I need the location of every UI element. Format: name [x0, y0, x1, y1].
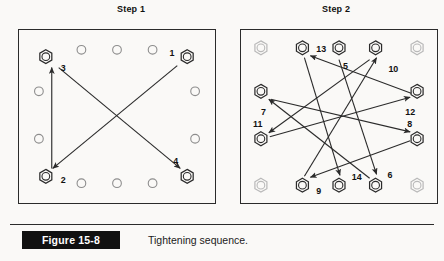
bolt-hole	[148, 45, 157, 54]
sequence-arrow-13-to-14	[304, 58, 340, 176]
sequence-arrow-10-to-11	[269, 60, 370, 133]
hex-bolt-8	[411, 132, 423, 146]
step1-bolt-numbers: 1234	[61, 48, 179, 186]
bolt-number-6: 6	[387, 170, 392, 180]
hex-bolt-14	[333, 178, 345, 192]
bolt-number-11: 11	[253, 119, 262, 129]
hex-bolt-5	[333, 41, 345, 55]
sequence-arrow-1-to-2	[53, 66, 178, 169]
figure-caption-row: Figure 15-8 Tightening sequence.	[10, 231, 434, 250]
corner-bolt-faded-1	[255, 41, 267, 55]
step2-bolt-numbers: 135107111289146	[253, 44, 415, 196]
bolt-number-8: 8	[407, 119, 412, 129]
bolt-number-1: 1	[169, 48, 174, 58]
bolt-number-10: 10	[388, 64, 398, 74]
bolt-hole	[35, 87, 44, 96]
step2-canvas: 135107111289146	[241, 30, 437, 203]
bolt-hole	[191, 87, 200, 96]
bolt-hole	[113, 45, 122, 54]
step2-title: Step 2	[322, 4, 350, 14]
step1-sequence-arrows	[52, 66, 181, 169]
hex-bolt-1	[181, 50, 193, 64]
bolt-hole	[35, 134, 44, 143]
corner-bolt-faded-3	[255, 178, 267, 192]
bolt-hole	[77, 179, 86, 188]
sequence-arrow-3-to-4	[59, 68, 181, 169]
hex-bolt-12	[411, 84, 423, 98]
bolt-number-3: 3	[61, 63, 66, 73]
bolt-number-12: 12	[405, 107, 415, 117]
hex-bolt-3	[40, 50, 52, 64]
bolt-number-2: 2	[61, 175, 66, 185]
step1-canvas: 1234	[19, 30, 215, 203]
bolt-number-14: 14	[352, 172, 362, 182]
figure-caption-text: Tightening sequence.	[148, 232, 248, 249]
hex-bolt-6	[370, 178, 382, 192]
bolt-hole	[77, 45, 86, 54]
figure-number-badge: Figure 15-8	[22, 231, 120, 249]
hex-bolt-11	[255, 132, 267, 146]
corner-bolt-faded-4	[411, 178, 423, 192]
bolt-number-5: 5	[343, 61, 348, 71]
bolt-number-13: 13	[316, 44, 326, 54]
hex-bolt-13	[296, 41, 308, 55]
hex-bolt-9	[296, 178, 308, 192]
bolt-hole	[113, 179, 122, 188]
flange-diagram-step2: 135107111289146	[240, 29, 438, 204]
caption-divider	[10, 224, 434, 225]
sequence-arrow-12-to-13	[310, 56, 411, 94]
figure-page: Step 1 Step 2 1234 1351071112891	[0, 0, 444, 261]
hex-bolt-10	[370, 41, 382, 55]
bolt-number-7: 7	[261, 107, 266, 117]
bolt-number-9: 9	[316, 186, 321, 196]
flange-diagram-step1: 1234	[18, 29, 216, 204]
bolt-hole	[148, 179, 157, 188]
corner-bolt-faded-2	[411, 41, 423, 55]
hex-bolt-4	[181, 169, 193, 183]
bolt-hole	[191, 134, 200, 143]
hex-bolt-2	[40, 169, 52, 183]
step2-sequence-arrows	[269, 56, 411, 179]
hex-bolt-7	[255, 84, 267, 98]
bolt-number-4: 4	[173, 156, 178, 166]
step1-title: Step 1	[117, 4, 145, 14]
